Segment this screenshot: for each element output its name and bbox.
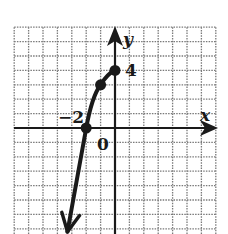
data-point (110, 65, 121, 76)
y-axis-label: y (122, 29, 134, 49)
curve (62, 65, 121, 232)
graph: y x −2 0 4 (0, 0, 228, 234)
tick-label-zero: 0 (97, 134, 109, 154)
tick-label-neg2: −2 (58, 107, 84, 127)
tick-label-four: 4 (125, 60, 137, 80)
y-axis (107, 26, 123, 234)
x-axis-label: x (199, 105, 211, 125)
data-point (95, 79, 106, 90)
